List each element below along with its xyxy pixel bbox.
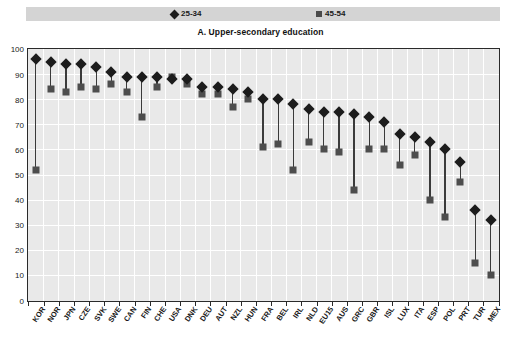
gridline-vertical bbox=[483, 49, 484, 301]
x-axis-tick-label: ISL bbox=[382, 305, 396, 320]
x-axis-tick-label: CHE bbox=[152, 305, 168, 323]
data-point-45-54 bbox=[426, 196, 433, 203]
gridline-vertical bbox=[119, 49, 120, 301]
gridline-horizontal bbox=[28, 225, 499, 226]
data-connector bbox=[429, 142, 430, 200]
x-axis-tick-label: CZE bbox=[77, 305, 93, 322]
chart-legend: 25-34 45-54 bbox=[26, 7, 500, 21]
gridline-vertical bbox=[74, 49, 75, 301]
data-point-25-34 bbox=[303, 104, 314, 115]
legend-entry-45-54: 45-54 bbox=[316, 7, 345, 21]
gridline-vertical bbox=[149, 49, 150, 301]
chart-title: A. Upper-secondary education bbox=[0, 27, 521, 37]
data-point-25-34 bbox=[424, 136, 435, 147]
gridline-vertical bbox=[407, 49, 408, 301]
data-point-25-34 bbox=[227, 84, 238, 95]
data-point-45-54 bbox=[229, 103, 236, 110]
x-axis-tick-label: GBR bbox=[364, 305, 381, 324]
gridline-vertical bbox=[271, 49, 272, 301]
x-axis-tick-label: DNK bbox=[182, 305, 199, 323]
y-axis-tick-label: 40 bbox=[2, 196, 24, 205]
y-axis-tick-label: 90 bbox=[2, 70, 24, 79]
data-point-25-34 bbox=[470, 204, 481, 215]
data-point-45-54 bbox=[320, 146, 327, 153]
gridline-horizontal bbox=[28, 250, 499, 251]
data-point-45-54 bbox=[32, 166, 39, 173]
x-axis-tick-label: IRL bbox=[291, 305, 305, 320]
x-axis-tick-label: USA bbox=[167, 305, 183, 323]
data-point-45-54 bbox=[138, 113, 145, 120]
gridline-vertical bbox=[134, 49, 135, 301]
data-point-25-34 bbox=[106, 66, 117, 77]
y-axis-tick-label: 70 bbox=[2, 120, 24, 129]
data-point-25-34 bbox=[348, 109, 359, 120]
gridline-vertical bbox=[180, 49, 181, 301]
gridline-vertical bbox=[225, 49, 226, 301]
gridline-vertical bbox=[362, 49, 363, 301]
data-point-45-54 bbox=[153, 83, 160, 90]
y-axis-tick-label: 50 bbox=[2, 171, 24, 180]
data-point-25-34 bbox=[364, 111, 375, 122]
gridline-vertical bbox=[422, 49, 423, 301]
data-connector bbox=[490, 220, 491, 275]
data-point-45-54 bbox=[366, 146, 373, 153]
x-axis-tick-label: ESP bbox=[426, 305, 442, 322]
data-point-25-34 bbox=[30, 53, 41, 64]
legend-label-25-34: 25-34 bbox=[181, 7, 201, 21]
data-point-25-34 bbox=[409, 131, 420, 142]
gridline-vertical bbox=[438, 49, 439, 301]
plot-area bbox=[27, 48, 500, 302]
data-point-25-34 bbox=[439, 144, 450, 155]
x-axis-labels: KORNORJPNCZESVKSWECANFINCHEUSADNKDEUAUTN… bbox=[27, 303, 500, 342]
data-point-45-54 bbox=[457, 179, 464, 186]
gridline-vertical bbox=[453, 49, 454, 301]
gridline-horizontal bbox=[28, 74, 499, 75]
data-connector bbox=[278, 99, 279, 144]
data-point-45-54 bbox=[47, 86, 54, 93]
y-axis-tick-label: 10 bbox=[2, 271, 24, 280]
data-point-45-54 bbox=[93, 86, 100, 93]
data-point-25-34 bbox=[318, 106, 329, 117]
data-point-45-54 bbox=[260, 143, 267, 150]
data-connector bbox=[444, 149, 445, 217]
y-axis-tick-label: 80 bbox=[2, 95, 24, 104]
data-point-25-34 bbox=[257, 94, 268, 105]
data-point-45-54 bbox=[381, 146, 388, 153]
data-point-25-34 bbox=[333, 106, 344, 117]
x-axis-tick-label: CAN bbox=[122, 305, 139, 323]
data-point-25-34 bbox=[273, 94, 284, 105]
gridline-vertical bbox=[347, 49, 348, 301]
data-point-25-34 bbox=[455, 156, 466, 167]
x-axis-tick-label: SVK bbox=[92, 305, 108, 323]
x-axis-tick-label: HUN bbox=[243, 305, 260, 323]
gridline-vertical bbox=[392, 49, 393, 301]
plot-inner bbox=[28, 49, 499, 301]
data-connector bbox=[35, 59, 36, 170]
x-axis-tick-label: FRA bbox=[259, 305, 275, 323]
gridline-vertical bbox=[468, 49, 469, 301]
data-point-25-34 bbox=[60, 58, 71, 69]
legend-entry-25-34: 25-34 bbox=[171, 7, 201, 21]
x-axis-tick-label: BEL bbox=[274, 305, 290, 322]
data-point-25-34 bbox=[379, 116, 390, 127]
x-axis-tick-label: AUS bbox=[334, 305, 350, 323]
x-axis-tick-label: PRT bbox=[456, 305, 472, 322]
data-point-45-54 bbox=[411, 151, 418, 158]
data-point-45-54 bbox=[396, 161, 403, 168]
x-axis-tick-label: NOR bbox=[46, 305, 63, 324]
data-connector bbox=[475, 210, 476, 263]
square-icon bbox=[316, 11, 322, 17]
data-point-25-34 bbox=[121, 71, 132, 82]
x-axis-tick-label: MEX bbox=[486, 305, 503, 323]
y-axis-tick-label: 60 bbox=[2, 145, 24, 154]
data-point-45-54 bbox=[275, 141, 282, 148]
y-axis-tick-label: 30 bbox=[2, 221, 24, 230]
y-axis-tick-label: 20 bbox=[2, 246, 24, 255]
data-connector bbox=[262, 99, 263, 147]
data-point-45-54 bbox=[305, 138, 312, 145]
x-axis-tick-label: TUR bbox=[471, 305, 487, 323]
x-axis-tick-label: JPN bbox=[62, 305, 78, 322]
data-point-45-54 bbox=[442, 214, 449, 221]
diamond-icon bbox=[170, 9, 180, 19]
data-point-25-34 bbox=[288, 99, 299, 110]
